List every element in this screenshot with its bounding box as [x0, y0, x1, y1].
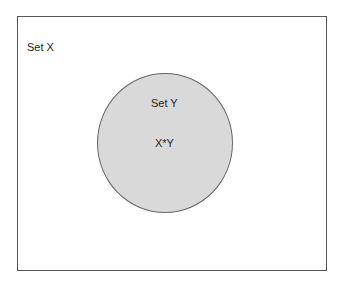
set-x-label: Set X	[27, 41, 54, 53]
set-y-label: Set Y	[151, 97, 178, 109]
intersection-label: X*Y	[155, 137, 174, 149]
